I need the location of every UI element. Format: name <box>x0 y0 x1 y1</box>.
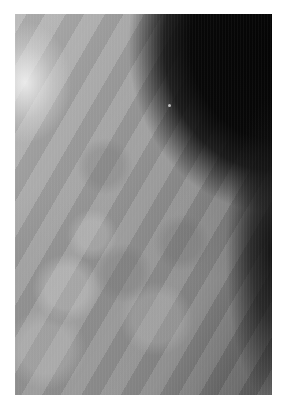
scan-line-artifacts <box>15 14 272 395</box>
mammogram-image <box>15 14 272 395</box>
calcification-speck <box>168 104 171 107</box>
